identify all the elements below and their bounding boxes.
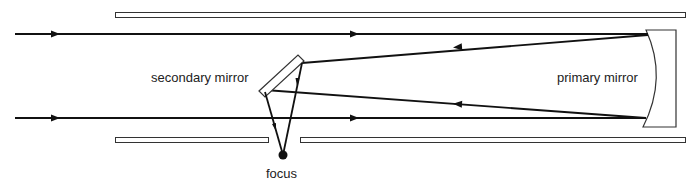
telescope-diagram: secondary mirror primary mirror focus (0, 0, 699, 189)
focus-point (279, 151, 288, 160)
tube-wall-bottom-right (301, 138, 686, 143)
secondary-mirror-label: secondary mirror (151, 70, 249, 85)
arrow-head-icon (51, 115, 60, 122)
arrow-head-icon (350, 115, 359, 122)
arrow-head-icon (272, 123, 276, 131)
primary-mirror (643, 30, 676, 127)
focus-label: focus (266, 166, 298, 181)
tube-wall-bottom-left (116, 138, 269, 143)
primary-mirror-label: primary mirror (557, 70, 639, 85)
arrow-head-icon (350, 31, 359, 38)
arrow-head-icon (51, 31, 60, 38)
reflected-ray-top (302, 35, 648, 63)
arrow-head-icon (453, 100, 462, 108)
tube-wall-top (116, 13, 686, 18)
